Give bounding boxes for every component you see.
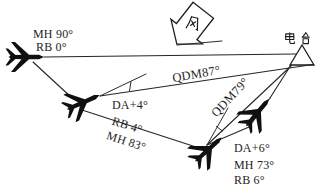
label-mh73: MH 73°: [234, 158, 274, 172]
wind-label: 风: [184, 20, 198, 35]
label-da6: DA+6°: [234, 141, 270, 155]
label-mh90: MH 90°: [33, 27, 73, 41]
label-rb6: RB 6°: [234, 173, 265, 187]
drift-angle-tick-da4: [130, 82, 132, 92]
label-rb0: RB 0°: [36, 40, 67, 54]
label-da4: DA+4°: [112, 98, 148, 112]
drift-angle-tick-da6: [217, 127, 223, 132]
aircraft-icon-2: [58, 81, 105, 124]
station-label: 电台: [283, 33, 311, 48]
radio-station-triangle-icon: [290, 45, 314, 65]
track-line-rb0: [44, 54, 296, 57]
aircraft-icon-3: [183, 126, 232, 174]
radio-homing-drift-diagram: 风 电台 MH 90° RB 0° QDM87° DA+4° RB 4° MH …: [0, 0, 329, 194]
diagram-canvas: 风 电台 MH 90° RB 0° QDM87° DA+4° RB 4° MH …: [0, 0, 329, 194]
drift-segment-1: [33, 62, 72, 98]
